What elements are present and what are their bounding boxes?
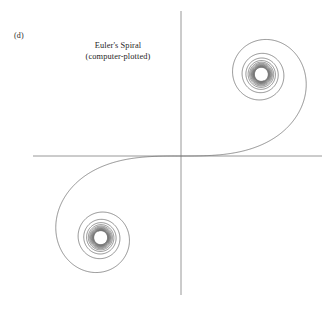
- panel-label: (d): [14, 31, 24, 40]
- figure-title: Euler's Spiral: [66, 40, 170, 51]
- figure-subtitle: (computer-plotted): [66, 51, 170, 62]
- figure-caption: Euler's Spiral (computer-plotted): [66, 40, 170, 62]
- euler-spiral-figure: (d) Euler's Spiral (computer-plotted): [0, 0, 336, 310]
